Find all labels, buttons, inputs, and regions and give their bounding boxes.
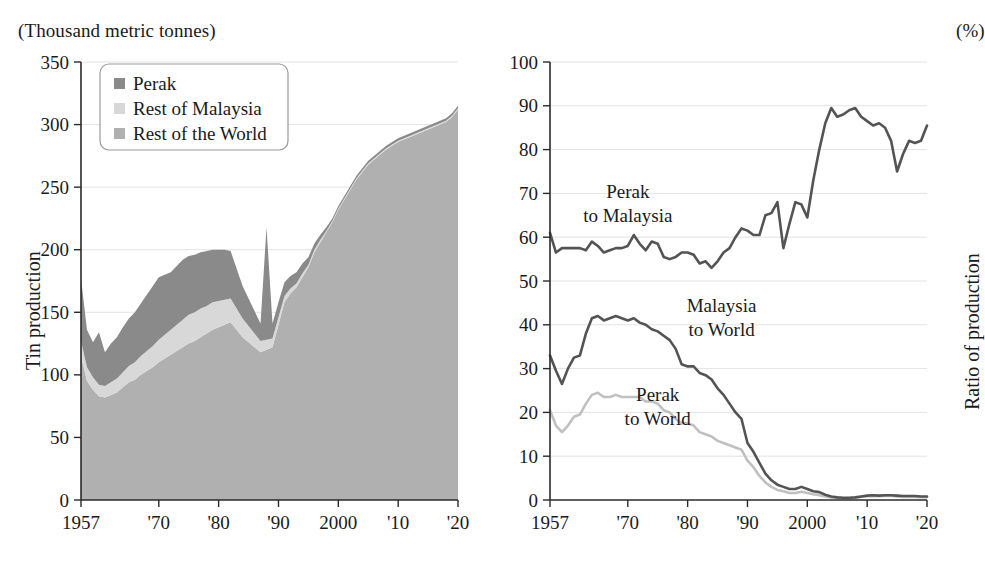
y-tick-label: 70: [519, 183, 538, 204]
x-tick-label: '10: [387, 512, 409, 533]
y-tick-label: 60: [519, 227, 538, 248]
x-tick-label: '80: [207, 512, 229, 533]
y-tick-label: 100: [510, 52, 539, 73]
x-tick-label: '80: [676, 512, 698, 533]
annotation-perak-to-world: Perakto World: [625, 384, 692, 429]
legend-label-perak: Perak: [133, 73, 177, 94]
y-tick-label: 40: [519, 314, 538, 335]
legend-label-rest-of-malaysia: Rest of Malaysia: [133, 98, 262, 119]
legend-swatch-rest-of-malaysia: [114, 103, 125, 114]
y-tick-label: 50: [519, 271, 538, 292]
annotation-line-1: Perak: [606, 181, 650, 202]
line-series-perak-to-world: [550, 393, 927, 499]
y-tick-label: 80: [519, 139, 538, 160]
legend-swatch-rest-of-the-world: [114, 128, 125, 139]
x-tick-label: '20: [447, 512, 469, 533]
y-tick-label: 100: [41, 364, 70, 385]
y-tick-label: 0: [529, 490, 539, 511]
annotation-line-1: Malaysia: [687, 295, 757, 316]
y-tick-label: 300: [41, 114, 70, 135]
y-tick-label: 90: [519, 95, 538, 116]
left-chart-svg: 0501001502002503003501957'70'80'902000'1…: [0, 0, 469, 562]
y-tick-label: 350: [41, 52, 70, 73]
line-series-malaysia-to-world: [550, 316, 927, 498]
annotation-line-2: to Malaysia: [583, 205, 673, 226]
legend-label-rest-of-the-world: Rest of the World: [133, 123, 267, 144]
x-tick-label: '10: [856, 512, 878, 533]
annotation-line-2: to World: [688, 319, 755, 340]
right-y-axis-title: Ratio of production: [961, 253, 984, 410]
x-tick-label: '90: [267, 512, 289, 533]
annotation-malaysia-to-world: Malaysiato World: [687, 295, 757, 340]
annotation-line-2: to World: [625, 408, 692, 429]
y-tick-label: 150: [41, 302, 70, 323]
x-tick-label: '20: [916, 512, 938, 533]
x-tick-label: '70: [617, 512, 639, 533]
y-tick-label: 50: [50, 427, 69, 448]
x-tick-label: '70: [148, 512, 170, 533]
x-tick-label: '90: [736, 512, 758, 533]
y-tick-label: 250: [41, 177, 70, 198]
y-tick-label: 10: [519, 446, 538, 467]
legend-swatch-perak: [114, 78, 125, 89]
left-chart-panel: (Thousand metric tonnes) Tin production …: [0, 0, 469, 562]
right-unit-label: (%): [956, 20, 985, 42]
annotation-line-1: Perak: [636, 384, 680, 405]
x-tick-label: 2000: [788, 512, 826, 533]
right-chart-panel: (%) Ratio of production 0102030405060708…: [469, 0, 938, 562]
x-tick-label: 2000: [319, 512, 357, 533]
y-tick-label: 30: [519, 358, 538, 379]
y-tick-label: 0: [60, 490, 70, 511]
y-tick-label: 200: [41, 239, 70, 260]
x-tick-label: 1957: [531, 512, 569, 533]
annotation-perak-to-malaysia: Perakto Malaysia: [583, 181, 673, 226]
x-tick-label: 1957: [62, 512, 100, 533]
y-tick-label: 20: [519, 402, 538, 423]
right-chart-svg: 01020304050607080901001957'70'80'902000'…: [469, 0, 938, 562]
